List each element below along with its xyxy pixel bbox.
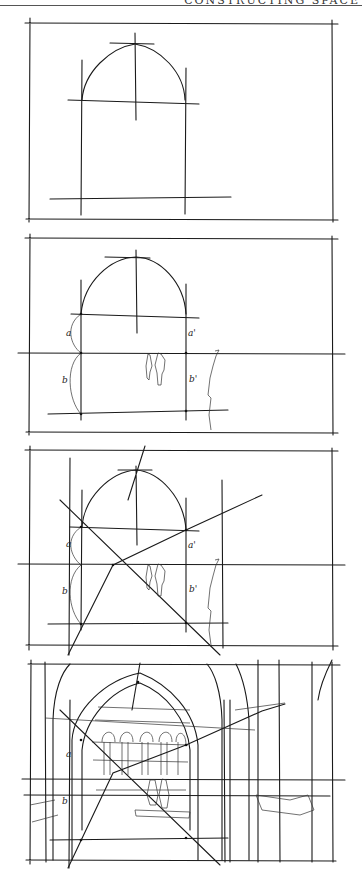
label-b: b	[62, 375, 68, 385]
label-b: b	[62, 586, 68, 596]
label-b-prime: b'	[189, 374, 197, 384]
label-b-prime: b'	[189, 584, 197, 594]
label-b: b	[62, 796, 68, 806]
panel-2: a b a' b'	[18, 234, 345, 435]
label-a-prime: a'	[188, 540, 196, 550]
label-a-prime: a'	[188, 328, 196, 338]
label-a: a	[66, 539, 71, 549]
panel-4: a b	[22, 660, 345, 868]
construction-sketch: a b a' b' a b a' b'	[0, 0, 362, 882]
label-a: a	[66, 749, 71, 759]
panel-1	[25, 18, 338, 222]
panel-3: a b a' b'	[18, 446, 345, 655]
label-a: a	[66, 328, 71, 338]
